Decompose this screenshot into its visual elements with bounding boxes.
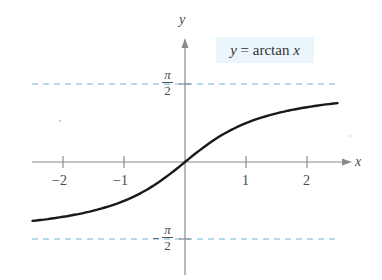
minus-sign: − [152,231,159,247]
tick-label-minus-1: −1 [113,174,128,188]
denominator: 2 [164,239,171,252]
function-label-eq: = arctan [237,42,293,59]
label-pi-over-2: π 2 [162,68,173,97]
tick-label-minus-2: −2 [52,174,67,188]
arctan-chart [0,0,382,280]
function-label-var: x [293,42,300,59]
pi-symbol: π [164,223,171,236]
artifact-dot [59,120,61,122]
function-label: y = arctan x [216,37,314,63]
x-axis-label: x [355,155,361,169]
pi-symbol: π [164,68,171,81]
y-axis-arrow-icon [182,38,189,48]
tick-label-2: 2 [303,174,310,188]
tick-label-1: 1 [242,174,249,188]
function-label-lhs: y [230,42,237,59]
y-axis-label: y [179,13,185,27]
label-minus-pi-over-2: π 2 [162,223,173,252]
denominator: 2 [164,84,171,97]
x-axis-arrow-icon [342,159,352,166]
artifact-dot [349,135,351,137]
